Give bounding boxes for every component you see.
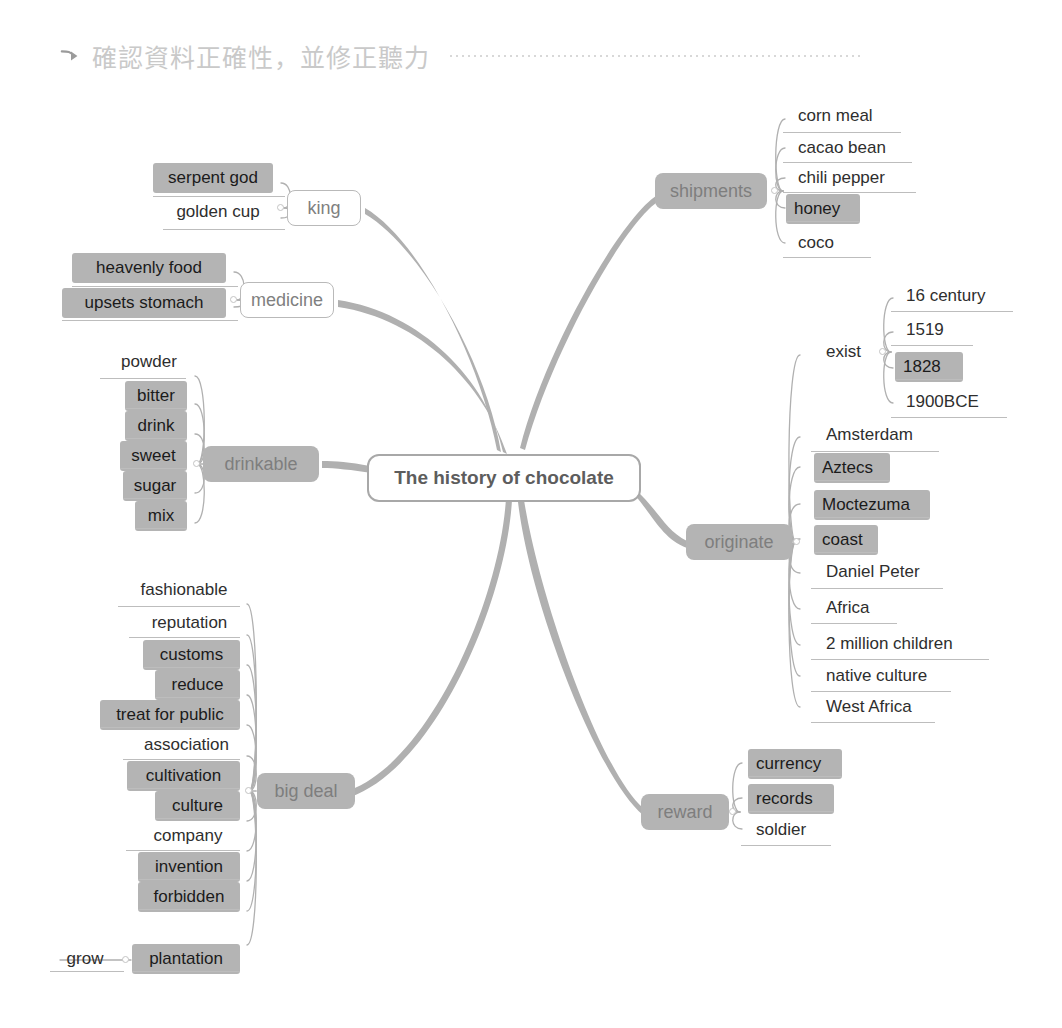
leaf-underline [120,468,187,469]
leaf-node[interactable]: records [748,784,834,814]
leaf-underline [50,971,124,972]
leaf-node[interactable]: treat for public [100,700,240,730]
branch-node-medicine[interactable]: medicine [240,282,334,318]
leaf-node[interactable]: fashionable [130,575,238,605]
leaf-underline [786,221,860,222]
leaf-node[interactable]: grow [57,944,113,974]
sub-connectors-bigdeal [247,604,256,945]
leaf-node[interactable]: plantation [132,944,240,974]
leaf-node[interactable]: 1900BCE [898,387,998,417]
leaf-underline [143,667,240,668]
leaf-node[interactable]: customs [143,640,240,670]
leaf-underline [100,378,186,379]
leaf-underline [748,776,842,777]
header-title: 確認資料正確性，並修正聽力 [92,38,430,74]
leaf-node[interactable]: honey [786,194,860,224]
connector-dot-medicine [230,296,237,303]
leaf-node[interactable]: Daniel Peter [818,557,930,587]
leaf-underline [163,229,285,230]
leaf-node[interactable]: sugar [123,471,187,501]
leaf-node[interactable]: serpent god [153,163,273,193]
leaf-node[interactable]: 1519 [898,315,958,345]
branch-node-drinkable[interactable]: drinkable [203,446,319,482]
leaf-node[interactable]: coco [790,228,860,258]
leaf-node[interactable]: powder [113,347,185,377]
leaf-node[interactable]: chili pepper [790,163,900,193]
leaf-node[interactable]: sweet [120,441,187,471]
connector-dot-reward [729,808,736,815]
leaf-node[interactable]: Moctezuma [814,490,930,520]
leaf-underline [127,788,240,789]
leaf-underline [811,722,935,723]
leaf-node[interactable]: Aztecs [814,453,890,483]
branch-node-reward[interactable]: reward [641,794,729,830]
leaf-node[interactable]: bitter [125,381,187,411]
leaf-underline [891,417,1007,418]
connector-dot-shipments [771,187,778,194]
leaf-underline [129,637,240,638]
leaf-underline [155,697,240,698]
sub-connectors-shipments [776,119,785,243]
page-header: 確認資料正確性，並修正聽力 [60,38,863,74]
leaf-underline [138,879,240,880]
leaf-node[interactable]: company [136,821,240,851]
leaf-node[interactable]: association [133,730,240,760]
leaf-underline [814,517,930,518]
leaf-node[interactable]: culture [155,791,240,821]
leaf-node[interactable]: 16 century [898,281,1004,311]
leaf-node[interactable]: cacao bean [790,133,898,163]
root-node[interactable]: The history of chocolate [367,454,641,502]
leaf-node[interactable]: Amsterdam [818,420,928,450]
leaf-underline [811,623,897,624]
leaf-node[interactable]: native culture [818,661,940,691]
connector-dot-plantation [122,956,129,963]
leaf-node[interactable]: coast [814,525,878,555]
leaf-underline [135,528,187,529]
leaf-node[interactable]: 2 million children [818,629,978,659]
connector-dot-originate [793,538,800,545]
leaf-underline [811,588,943,589]
leaf-underline [783,257,871,258]
leaf-node[interactable]: reputation [139,608,240,638]
leaf-underline [814,480,890,481]
branch-node-big-deal[interactable]: big deal [257,773,355,809]
branch-node-originate[interactable]: originate [686,524,792,560]
leaf-node[interactable]: 1828 [895,352,963,382]
leaf-node[interactable]: corn meal [790,101,890,131]
arrow-right-curve-icon [60,45,82,67]
leaf-node[interactable]: Africa [818,593,884,623]
leaf-node[interactable]: reduce [155,670,240,700]
leaf-underline [741,845,831,846]
leaf-underline [895,379,963,380]
leaf-underline [891,345,973,346]
leaf-underline [123,498,187,499]
branch-node-shipments[interactable]: shipments [655,173,767,209]
leaf-node[interactable]: forbidden [138,882,240,912]
leaf-node[interactable]: West Africa [818,692,924,722]
leaf-node[interactable]: currency [748,749,842,779]
leaf-underline [62,320,238,321]
leaf-underline [814,552,878,553]
leaf-node[interactable]: cultivation [127,761,240,791]
connector-dot-king [277,204,284,211]
leaf-underline [748,811,834,812]
leaf-underline [891,311,1013,312]
leaf-node[interactable]: soldier [748,815,818,845]
leaf-underline [155,818,240,819]
connector-dot-big-deal [245,787,252,794]
connector-dot-drinkable [193,460,200,467]
leaf-underline [100,727,240,728]
main-branch-curves [322,196,687,815]
leaf-node[interactable]: upsets stomach [62,288,226,318]
leaf-underline [138,909,240,910]
leaf-node[interactable]: heavenly food [72,253,226,283]
mindmap-canvas: 確認資料正確性，並修正聽力 [0,0,1062,1028]
leaf-underline [132,971,240,972]
branch-node-king[interactable]: king [287,190,361,226]
leaf-node[interactable]: mix [135,501,187,531]
leaf-node[interactable]: golden cup [163,197,273,227]
leaf-node-exist[interactable]: exist [818,337,872,367]
leaf-node[interactable]: invention [138,852,240,882]
leaf-node[interactable]: drink [125,411,187,441]
leaf-underline [125,438,187,439]
